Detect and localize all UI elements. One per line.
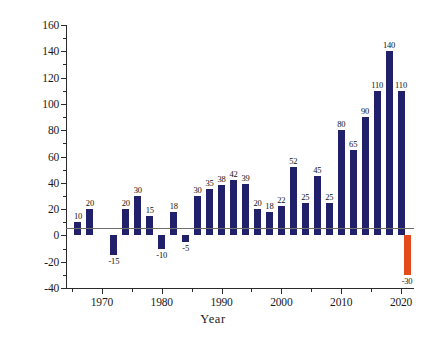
y-axis-tick-label: 20 (48, 203, 59, 215)
bar-value-label: 110 (371, 80, 383, 90)
x-axis-title: Year (0, 312, 426, 327)
x-axis-tick (162, 289, 163, 294)
y-axis-minor-tick (63, 38, 66, 39)
x-axis-tick (281, 289, 282, 294)
y-axis-title-subscript: 2 (0, 84, 1, 88)
bar[interactable] (326, 203, 333, 236)
bar-value-label: 90 (361, 106, 369, 116)
bar-value-label: 45 (313, 165, 321, 175)
bar-value-label: 80 (337, 119, 345, 129)
y-axis-minor-tick (63, 196, 66, 197)
bar-value-label: 18 (265, 201, 273, 211)
y-axis-tick (61, 51, 66, 52)
x-axis-tick-label: 1970 (91, 296, 113, 308)
bar-value-label: 22 (277, 195, 285, 205)
bar-value-label: 10 (74, 211, 82, 221)
x-axis-tick-label: 2010 (330, 296, 352, 308)
bar-value-label: 110 (395, 80, 407, 90)
bar[interactable] (86, 209, 93, 235)
bar-value-label: 20 (253, 198, 261, 208)
co2-emissions-bar-chart: Millions of Tonnes of CO2 -40-2002040608… (0, 0, 426, 339)
bar-value-label: 140 (383, 40, 395, 50)
x-axis-tick-label: 1980 (151, 296, 173, 308)
y-axis-tick-label: -40 (44, 282, 59, 294)
bar-value-label: -30 (402, 276, 413, 286)
bar-value-label: -15 (108, 256, 119, 266)
bar-value-label: 30 (134, 185, 142, 195)
bar[interactable] (266, 212, 273, 236)
bar[interactable] (362, 117, 369, 235)
bar-value-label: -5 (182, 243, 189, 253)
bar[interactable] (170, 212, 177, 236)
y-axis-minor-tick (63, 249, 66, 250)
y-axis-tick (61, 130, 66, 131)
plot-area: -40-20020406080100120140160 1020-1520301… (66, 25, 413, 288)
y-axis-tick-label: 40 (48, 177, 59, 189)
bar-value-label: 20 (86, 198, 94, 208)
x-axis-tick (102, 289, 103, 294)
bar[interactable] (398, 91, 405, 236)
bar[interactable] (302, 203, 309, 236)
y-axis-tick (61, 235, 66, 236)
bar-value-label: -10 (156, 250, 167, 260)
y-axis-title: Millions of Tonnes of CO2 (0, 30, 1, 270)
y-axis-tick-label: 160 (42, 19, 59, 31)
y-axis-minor-tick (63, 275, 66, 276)
bar-value-label: 25 (325, 192, 333, 202)
y-axis-minor-tick (63, 222, 66, 223)
bar[interactable] (182, 235, 189, 242)
x-axis-tick (222, 289, 223, 294)
bar-value-label: 20 (122, 198, 130, 208)
bar[interactable] (314, 176, 321, 235)
bar-value-label: 39 (241, 173, 249, 183)
bar[interactable] (146, 216, 153, 236)
y-axis-tick (61, 157, 66, 158)
y-axis-tick-label: 80 (48, 124, 59, 136)
bar[interactable] (122, 209, 129, 235)
x-axis-tick-label: 1990 (210, 296, 232, 308)
y-axis-tick-label: 120 (42, 72, 59, 84)
y-axis-tick (61, 209, 66, 210)
y-axis-tick (61, 78, 66, 79)
x-axis-minor-tick (371, 289, 372, 292)
bar[interactable] (278, 206, 285, 235)
bar[interactable] (374, 91, 381, 236)
y-axis-tick (61, 183, 66, 184)
bar-value-label: 42 (229, 169, 237, 179)
bar-value-label: 25 (301, 192, 309, 202)
x-axis-tick (341, 289, 342, 294)
x-axis-minor-tick (251, 289, 252, 292)
y-axis-tick-label: 100 (42, 98, 59, 110)
bar-value-label: 35 (206, 178, 214, 188)
y-axis-tick-label: -20 (44, 256, 59, 268)
bar-value-label: 18 (170, 201, 178, 211)
bar-value-label: 65 (349, 139, 357, 149)
bar[interactable] (290, 167, 297, 235)
x-axis-tick-label: 2000 (270, 296, 292, 308)
bar[interactable] (158, 235, 165, 248)
bar[interactable] (404, 235, 411, 274)
y-axis-tick-label: 0 (53, 229, 59, 241)
zero-baseline (66, 228, 414, 229)
bar[interactable] (134, 196, 141, 235)
x-axis-minor-tick (132, 289, 133, 292)
y-axis-tick (61, 25, 66, 26)
x-axis-minor-tick (311, 289, 312, 292)
y-axis-minor-tick (63, 64, 66, 65)
y-axis-tick (61, 262, 66, 263)
bar[interactable] (110, 235, 117, 255)
bar-value-label: 52 (289, 156, 297, 166)
y-axis-tick-label: 60 (48, 151, 59, 163)
bar[interactable] (194, 196, 201, 235)
bar[interactable] (254, 209, 261, 235)
y-axis-tick (61, 104, 66, 105)
x-axis-minor-tick (192, 289, 193, 292)
bar[interactable] (338, 130, 345, 235)
y-axis-tick-label: 140 (42, 45, 59, 57)
x-axis-tick-label: 2020 (390, 296, 412, 308)
bar[interactable] (386, 51, 393, 235)
bar-value-label: 38 (217, 174, 225, 184)
y-axis-minor-tick (63, 117, 66, 118)
bar[interactable] (350, 150, 357, 235)
y-axis-minor-tick (63, 91, 66, 92)
